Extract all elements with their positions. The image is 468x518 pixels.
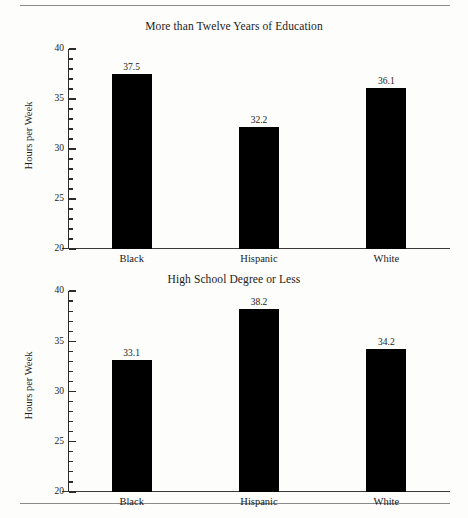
bar-value-hispanic-education: 32.2 [251, 115, 268, 125]
y-tick-label-education: 35 [55, 93, 65, 103]
bar-value-white-education: 36.1 [378, 76, 395, 86]
bar-value-black-education: 37.5 [123, 62, 140, 72]
y-tick-label-highschool: 35 [55, 336, 65, 346]
bar-black-highschool[interactable] [112, 360, 152, 492]
y-axis-label-highschool: Hours per Week [23, 336, 34, 436]
plot-area-education: 202530354037.5Black32.2Hispanic36.1White [68, 49, 450, 249]
x-tick-label-black-education: Black [119, 253, 144, 264]
figure-page: More than Twelve Years of Education Hour… [0, 0, 468, 518]
y-axis-label-education: Hours per Week [23, 86, 34, 186]
bar-white-highschool[interactable] [366, 349, 406, 492]
y-tick-label-education: 25 [55, 193, 65, 203]
x-tick-label-white-education: White [373, 253, 399, 264]
bar-group-white-education: 36.1White [323, 49, 450, 249]
x-tick-label-hispanic-education: Hispanic [240, 253, 277, 264]
bar-white-education[interactable] [366, 88, 406, 249]
bar-group-white-highschool: 34.2White [323, 291, 450, 492]
bar-hispanic-highschool[interactable] [239, 309, 279, 492]
y-tick-label-highschool: 20 [55, 486, 65, 496]
bar-group-hispanic-highschool: 38.2Hispanic [195, 291, 322, 492]
y-tick-label-highschool: 30 [55, 386, 65, 396]
chart-panel-education: More than Twelve Years of Education Hour… [0, 12, 468, 257]
bar-hispanic-education[interactable] [239, 127, 279, 249]
top-horizontal-rule [20, 5, 450, 6]
x-tick-label-white-highschool: White [373, 496, 399, 507]
bar-group-black-education: 37.5Black [68, 49, 195, 249]
chart-title-highschool: High School Degree or Less [0, 273, 468, 285]
bar-value-white-highschool: 34.2 [378, 337, 395, 347]
bar-value-black-highschool: 33.1 [123, 348, 140, 358]
chart-title-education: More than Twelve Years of Education [0, 20, 468, 32]
y-tick-label-education: 20 [55, 243, 65, 253]
x-tick-label-hispanic-highschool: Hispanic [240, 496, 277, 507]
plot-area-highschool: 202530354033.1Black38.2Hispanic34.2White [68, 291, 450, 492]
y-tick-label-education: 40 [55, 43, 65, 53]
chart-panel-highschool: High School Degree or Less Hours per Wee… [0, 268, 468, 500]
bar-black-education[interactable] [112, 74, 152, 249]
y-tick-label-highschool: 25 [55, 436, 65, 446]
bar-value-hispanic-highschool: 38.2 [251, 297, 268, 307]
bar-group-hispanic-education: 32.2Hispanic [195, 49, 322, 249]
bar-group-black-highschool: 33.1Black [68, 291, 195, 492]
y-tick-label-highschool: 40 [55, 285, 65, 295]
y-tick-label-education: 30 [55, 143, 65, 153]
x-tick-label-black-highschool: Black [119, 496, 144, 507]
